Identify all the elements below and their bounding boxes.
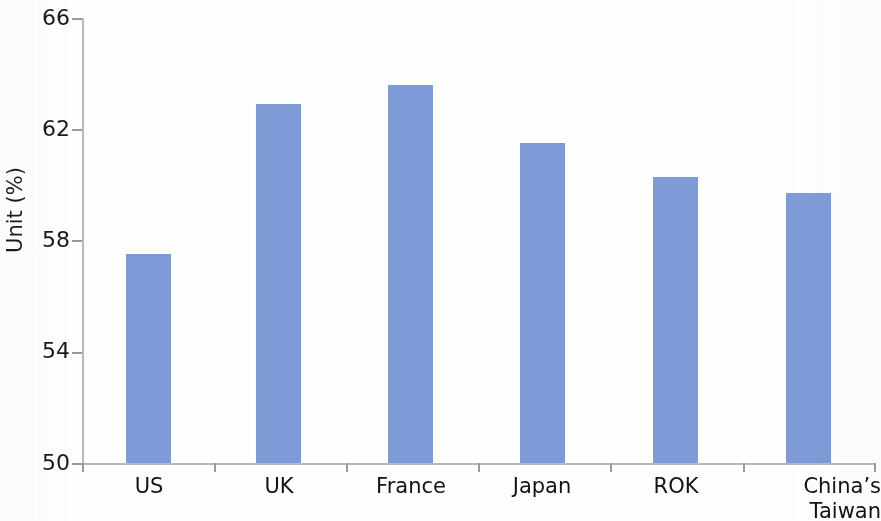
x-cat-label-japan: Japan (496, 474, 588, 499)
y-tick-label-62: 62 (10, 118, 70, 140)
x-tick-mark-6 (874, 463, 876, 472)
x-tick-mark-5 (743, 463, 745, 472)
x-cat-label-france: France (358, 474, 464, 499)
x-tick-mark-2 (346, 463, 348, 472)
bar-china-taiwan-region (786, 193, 831, 463)
x-tick-mark-3 (478, 463, 480, 472)
bar-uk (256, 104, 301, 463)
x-tick-mark-1 (214, 463, 216, 472)
x-tick-mark-0 (82, 463, 84, 472)
x-tick-mark-4 (610, 463, 612, 472)
x-cat-label-china-taiwan-region: China’s Taiwan region (735, 474, 881, 521)
y-tick-label-58: 58 (10, 229, 70, 251)
y-axis-line (82, 18, 84, 464)
x-cat-label-uk: UK (238, 474, 320, 499)
y-tick-label-50: 50 (10, 452, 70, 474)
y-tick-label-54: 54 (10, 340, 70, 362)
x-cat-label-rok: ROK (632, 474, 720, 499)
bar-chart: Unit (%) 66 62 58 54 50 US UK France Jap… (0, 0, 881, 521)
bar-france (388, 85, 433, 463)
y-tick-label-66: 66 (10, 7, 70, 29)
bar-japan (520, 143, 565, 463)
x-cat-label-us: US (108, 474, 190, 499)
bar-us (126, 254, 171, 463)
bar-rok (653, 177, 698, 463)
